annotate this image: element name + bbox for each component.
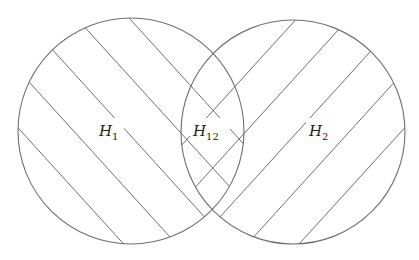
venn-diagram: H1 H12 H2 bbox=[0, 0, 419, 260]
